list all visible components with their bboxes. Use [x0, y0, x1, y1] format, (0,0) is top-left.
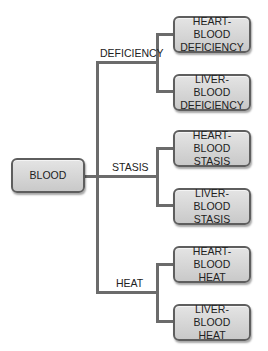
node-heart-blood-heat: HEART-BLOOD HEAT — [173, 246, 251, 283]
heat-child1-connector — [156, 263, 174, 266]
stasis-branch-line — [96, 175, 159, 178]
branch-label-heat: HEAT — [116, 277, 143, 289]
node-liver-blood-heat: LIVER-BLOOD HEAT — [173, 304, 251, 341]
node-liver-blood-deficiency: LIVER-BLOOD DEFICIENCY — [173, 74, 251, 111]
branch-label-deficiency: DEFICIENCY — [100, 47, 164, 59]
stasis-sub-vertical — [156, 147, 159, 207]
deficiency-branch-line — [96, 61, 159, 64]
deficiency-child1-connector — [156, 33, 174, 36]
heat-sub-vertical — [156, 263, 159, 323]
stasis-child2-connector — [156, 204, 174, 207]
heat-branch-line — [96, 291, 159, 294]
deficiency-sub-vertical — [156, 33, 159, 93]
stasis-child1-connector — [156, 147, 174, 150]
deficiency-child2-connector — [156, 90, 174, 93]
branch-label-stasis: STASIS — [112, 161, 149, 173]
heat-child2-connector — [156, 320, 174, 323]
node-heart-blood-deficiency: HEART-BLOOD DEFICIENCY — [173, 16, 251, 53]
node-heart-blood-stasis: HEART-BLOOD STASIS — [173, 130, 251, 167]
root-node-blood: BLOOD — [11, 158, 85, 193]
node-liver-blood-stasis: LIVER-BLOOD STASIS — [173, 188, 251, 225]
